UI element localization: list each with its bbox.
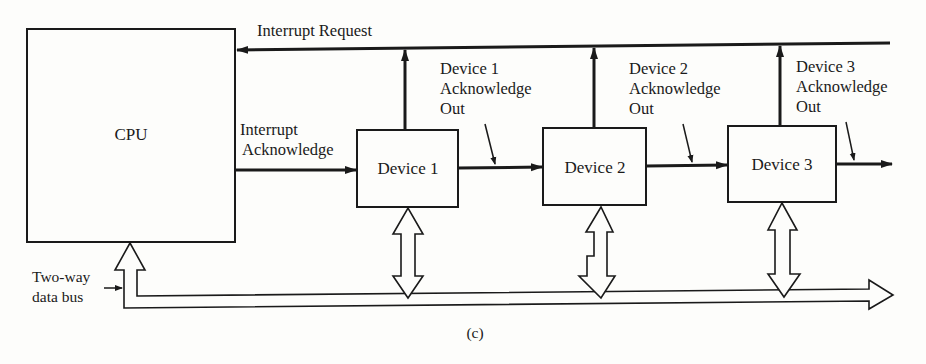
device-3-block: Device 3 (728, 126, 836, 202)
cpu-label: CPU (114, 125, 147, 144)
data-bus-label: Two-way data bus (32, 268, 122, 305)
device-2-block: Device 2 (543, 128, 646, 205)
device-2-ack-label-line1: Device 2 (629, 59, 688, 78)
device-2-label: Device 2 (565, 158, 626, 177)
device-1-block: Device 1 (357, 130, 458, 207)
device-1-ack-out-label: Device 1 Acknowledge Out (440, 59, 532, 164)
device-3-ack-label-line1: Device 3 (796, 57, 855, 76)
data-bus (115, 203, 893, 309)
device-2-ack-label-line3: Out (629, 99, 654, 118)
device-1-ack-label-line2: Acknowledge (440, 79, 532, 98)
device-3-ack-label-line3: Out (796, 97, 821, 116)
device-1-ack-out-arrow (458, 167, 542, 168)
interrupt-ack-label-line1: Interrupt (240, 120, 298, 139)
device-2-ack-out-arrow (646, 165, 727, 166)
interrupt-acknowledge-line: Interrupt Acknowledge (235, 120, 356, 170)
daisy-chain-interrupt-diagram: CPU Interrupt Request Interrupt Acknowle… (0, 0, 926, 364)
interrupt-request-label: Interrupt Request (257, 21, 372, 40)
device-1-ack-label-line3: Out (440, 99, 465, 118)
device-3-ack-label-line2: Acknowledge (796, 77, 888, 96)
interrupt-ack-label-line2: Acknowledge (242, 140, 334, 159)
figure-caption: (c) (466, 324, 483, 342)
device-1-label: Device 1 (378, 159, 439, 178)
device-3-ack-out-label: Device 3 Acknowledge Out (796, 57, 888, 160)
device-1-ack-label-line1: Device 1 (440, 59, 499, 78)
data-bus-label-line2: data bus (32, 288, 83, 305)
device-2-ack-label-line2: Acknowledge (629, 79, 721, 98)
interrupt-request-line: Interrupt Request (237, 21, 890, 50)
device-2-ack-out-label: Device 2 Acknowledge Out (629, 59, 721, 162)
cpu-block: CPU (27, 29, 235, 242)
device-3-label: Device 3 (752, 155, 813, 174)
data-bus-label-line1: Two-way (32, 268, 91, 285)
